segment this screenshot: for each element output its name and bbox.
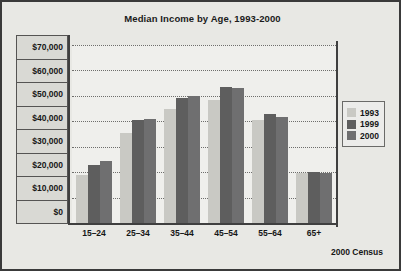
bar: [144, 119, 156, 223]
legend: 199319992000: [342, 101, 385, 147]
y-axis-tick-label: $50,000: [16, 82, 68, 106]
legend-item: 1993: [347, 108, 379, 118]
y-axis-line: [68, 35, 70, 225]
legend-item: 1999: [347, 119, 379, 129]
bar: [276, 117, 288, 223]
bar-group: [204, 45, 248, 223]
chart-title: Median Income by Age, 1993-2000: [2, 13, 401, 24]
x-axis-line: [68, 223, 338, 225]
x-axis-tick-label: 45–54: [204, 228, 248, 238]
bar: [88, 165, 100, 223]
legend-swatch-icon: [347, 120, 356, 129]
bar: [188, 96, 200, 223]
legend-label: 2000: [360, 131, 379, 141]
y-axis-tick-label: $0: [16, 200, 68, 225]
legend-label: 1993: [360, 108, 379, 118]
y-axis-tick-label: $20,000: [16, 153, 68, 177]
plot-area: [72, 45, 336, 223]
bar: [252, 120, 264, 223]
bar: [76, 175, 88, 223]
bar-group: [72, 45, 116, 223]
bar: [320, 173, 332, 223]
x-axis-tick-label: 55–64: [248, 228, 292, 238]
bar-group: [292, 45, 336, 223]
chart-figure: Median Income by Age, 1993-2000 $70,000$…: [0, 0, 401, 271]
y-axis-tick-label: $10,000: [16, 176, 68, 200]
bar: [132, 120, 144, 223]
bar: [296, 173, 308, 223]
x-axis-tick-label: 65+: [292, 228, 336, 238]
bar-group: [116, 45, 160, 223]
y-axis-tick-label: $40,000: [16, 106, 68, 130]
bar: [100, 161, 112, 223]
x-axis-tick-label: 25–34: [116, 228, 160, 238]
bar: [220, 87, 232, 223]
bar: [164, 109, 176, 223]
bar-group: [160, 45, 204, 223]
bar-group: [248, 45, 292, 223]
source-note: 2000 Census: [331, 247, 383, 257]
x-axis-tick-label: 35–44: [160, 228, 204, 238]
bar: [264, 114, 276, 223]
y-axis-tick-label: $60,000: [16, 59, 68, 83]
legend-item: 2000: [347, 131, 379, 141]
y-axis: $70,000$60,000$50,000$40,000$30,000$20,0…: [16, 35, 68, 224]
legend-swatch-icon: [347, 131, 356, 140]
bar: [120, 133, 132, 223]
bar-groups: [72, 45, 336, 223]
legend-label: 1999: [360, 119, 379, 129]
x-axis: 15–2425–3435–4445–5455–6465+: [72, 228, 336, 238]
bar: [176, 98, 188, 223]
bar: [208, 100, 220, 223]
y-axis-tick-label: $70,000: [16, 35, 68, 59]
plot-right-axis-line: [336, 41, 338, 227]
legend-swatch-icon: [347, 108, 356, 117]
bar: [308, 172, 320, 223]
bar: [232, 88, 244, 223]
x-axis-tick-label: 15–24: [72, 228, 116, 238]
y-axis-tick-label: $30,000: [16, 129, 68, 153]
